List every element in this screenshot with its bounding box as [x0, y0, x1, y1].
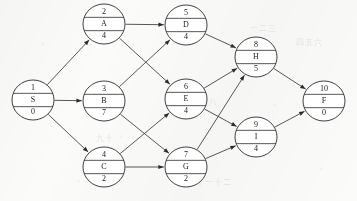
edge-a-to-d: [126, 23, 164, 27]
node-g[interactable]: 7G2: [165, 147, 207, 187]
node-activity-label: D: [183, 20, 189, 29]
node-activity-label: G: [183, 162, 189, 171]
arrow-head-icon: [240, 75, 245, 81]
edge-a-to-e: [120, 38, 170, 84]
node-activity-label: F: [322, 96, 327, 105]
arrow-head-icon: [231, 122, 237, 126]
node-h[interactable]: 8H5: [235, 37, 277, 77]
node-number: 7: [184, 150, 188, 159]
arrow-head-icon: [158, 23, 163, 27]
edge-b-to-d: [119, 40, 170, 87]
node-activity-label: S: [31, 95, 35, 104]
activity-network-graph: 1S02A43B74C25D46E47G28H59I410F0: [0, 0, 357, 201]
arrow-head-icon: [300, 84, 306, 89]
edge-i-to-f: [275, 111, 305, 127]
edge-s-to-c: [48, 114, 88, 152]
node-activity-label: C: [101, 162, 106, 171]
node-layer: 1S02A43B74C25D46E47G28H59I410F0: [12, 4, 345, 187]
node-number: 9: [254, 120, 258, 129]
node-duration: 5: [254, 64, 258, 73]
arrow-head-icon: [299, 111, 305, 115]
node-activity-label: A: [101, 19, 107, 28]
arrow-head-icon: [231, 68, 237, 73]
node-i[interactable]: 9I4: [235, 117, 277, 157]
node-b[interactable]: 3B7: [83, 81, 125, 121]
node-number: 1: [31, 83, 35, 92]
node-activity-label: H: [253, 52, 259, 61]
node-number: 6: [184, 82, 188, 91]
edge-h-to-f: [274, 69, 306, 90]
node-number: 4: [102, 150, 106, 159]
node-duration: 0: [322, 108, 326, 117]
node-duration: 4: [254, 144, 258, 153]
edge-g-to-i: [206, 146, 236, 159]
node-number: 5: [184, 8, 188, 17]
edge-d-to-h: [205, 34, 236, 48]
node-s[interactable]: 1S0: [12, 80, 54, 120]
node-e[interactable]: 6E4: [165, 79, 207, 119]
arrow-head-icon: [230, 146, 236, 150]
diagram-canvas: 一二三四五六七八九十十一十二 1S02A43B74C25D46E47G28H59…: [0, 0, 357, 201]
arrow-head-icon: [230, 44, 236, 48]
node-duration: 4: [184, 106, 188, 115]
node-number: 2: [102, 7, 106, 16]
node-duration: 4: [102, 31, 106, 40]
node-activity-label: I: [255, 132, 258, 141]
node-activity-label: B: [101, 96, 106, 105]
arrow-head-icon: [158, 165, 163, 169]
node-duration: 2: [184, 174, 188, 183]
node-number: 3: [102, 84, 106, 93]
node-c[interactable]: 4C2: [83, 147, 125, 187]
node-d[interactable]: 5D4: [165, 5, 207, 45]
edge-s-to-a: [47, 40, 89, 85]
node-duration: 0: [31, 107, 35, 116]
edge-s-to-b: [55, 99, 82, 103]
node-duration: 4: [184, 32, 188, 41]
node-duration: 7: [102, 108, 106, 117]
node-a[interactable]: 2A4: [83, 4, 125, 44]
node-number: 8: [254, 40, 258, 49]
edge-c-to-g: [126, 165, 164, 169]
node-activity-label: E: [184, 94, 189, 103]
edge-e-to-h: [204, 68, 237, 88]
node-number: 10: [320, 84, 328, 93]
arrow-head-icon: [76, 99, 81, 103]
node-f[interactable]: 10F0: [303, 81, 345, 121]
node-duration: 2: [102, 174, 106, 183]
